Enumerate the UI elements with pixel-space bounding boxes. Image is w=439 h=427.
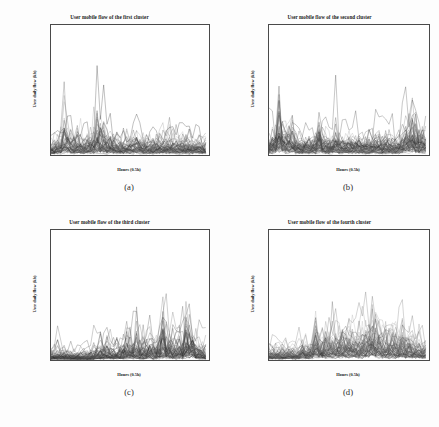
x-axis-label-a: Hours (0.5h)	[50, 167, 208, 172]
plot-area-d: 0100000200000300000400000500000600000700…	[268, 229, 430, 361]
chart-panel-d: User mobile flow of the fourth cluster U…	[220, 205, 439, 410]
trace-lines-a	[51, 25, 209, 155]
trace-lines-b	[269, 25, 429, 155]
chart-panel-b: User mobile flow of the second cluster U…	[220, 0, 439, 205]
subcaption-b: (b)	[268, 182, 428, 192]
chart-title-b: User mobile flow of the second cluster	[220, 14, 439, 20]
figure-sheet: User mobile flow of the first cluster Us…	[0, 0, 439, 427]
trace-lines-c	[51, 230, 209, 360]
y-axis-label-a: User daily flow (kb)	[32, 70, 37, 107]
y-axis-label-b: User daily flow (kb)	[250, 70, 255, 107]
x-axis-label-b: Hours (0.5h)	[268, 167, 428, 172]
plot-area-a: 0100000200000300000400000500000010203040	[50, 24, 210, 156]
chart-title-a: User mobile flow of the first cluster	[0, 14, 219, 20]
subcaption-a: (a)	[50, 182, 208, 192]
plot-area-b: 0200000400000600000800000010203040	[268, 24, 430, 156]
chart-title-c: User mobile flow of the third cluster	[0, 219, 219, 225]
chart-title-d: User mobile flow of the fourth cluster	[220, 219, 439, 225]
x-axis-label-c: Hours (0.5h)	[50, 372, 208, 377]
chart-panel-c: User mobile flow of the third cluster Us…	[0, 205, 219, 410]
trace-lines-d	[269, 230, 429, 360]
subcaption-d: (d)	[268, 387, 428, 397]
chart-panel-a: User mobile flow of the first cluster Us…	[0, 0, 219, 205]
y-axis-label-c: User daily flow (kb)	[32, 275, 37, 312]
subcaption-c: (c)	[50, 387, 208, 397]
y-axis-label-d: User daily flow (kb)	[250, 275, 255, 312]
plot-area-c: 0250000500000750000100000012500001500000…	[50, 229, 210, 361]
x-axis-label-d: Hours (0.5h)	[268, 372, 428, 377]
